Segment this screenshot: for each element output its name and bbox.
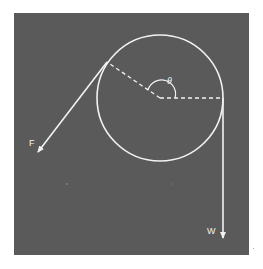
force-arrow-f [38, 62, 107, 152]
pulley-diagram: θ F W [0, 0, 263, 269]
background-speck [66, 183, 68, 185]
edge-speck [253, 248, 254, 249]
angle-label: θ [167, 75, 172, 86]
radius-dashed-f-side [107, 62, 160, 98]
weight-label-w: W [207, 226, 216, 236]
background-speck [171, 183, 172, 184]
force-label-f: F [29, 138, 35, 148]
